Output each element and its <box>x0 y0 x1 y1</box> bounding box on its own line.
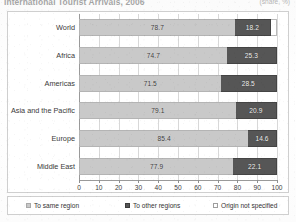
bar-segment-same-region[interactable]: 85.4 <box>79 130 248 147</box>
bar-segment-same-region[interactable]: 74.7 <box>79 47 227 64</box>
bar-value-label: 79.1 <box>151 107 164 114</box>
bar-value-label: 25.3 <box>245 52 258 59</box>
legend-item-unspecified[interactable]: Origin not specified <box>213 202 277 209</box>
x-tick <box>158 180 159 183</box>
x-tick <box>178 180 179 183</box>
bar-segment-other-regions[interactable]: 14.6 <box>248 130 277 147</box>
bar-rows: World78.718.2Africa74.725.3Americas71.52… <box>79 14 277 180</box>
bar-value-label: 20.9 <box>249 107 262 114</box>
x-tick <box>79 180 80 183</box>
bar-segment-same-region[interactable]: 79.1 <box>79 102 236 119</box>
x-tick-label: 60 <box>194 184 201 191</box>
x-tick-label: 80 <box>234 184 241 191</box>
bar-segment-other-regions[interactable]: 25.3 <box>227 47 277 64</box>
x-tick <box>119 180 120 183</box>
bar-row[interactable]: Africa74.725.3 <box>79 47 277 64</box>
category-label: Africa <box>56 47 75 64</box>
legend-label-other-regions: To other regions <box>133 202 180 209</box>
bar-value-label: 18.2 <box>246 24 259 31</box>
x-tick-label: 20 <box>115 184 122 191</box>
bar-segment-other-regions[interactable]: 22.1 <box>233 158 277 175</box>
category-label: Asia and the Pacific <box>11 102 75 119</box>
legend-swatch-origin-not-specified <box>213 203 218 208</box>
bar-value-label: 22.1 <box>248 163 261 170</box>
x-tick-label: 90 <box>254 184 261 191</box>
bar-row[interactable]: Middle East77.922.1 <box>79 158 277 175</box>
x-tick <box>99 180 100 183</box>
x-tick <box>198 180 199 183</box>
bar-value-label: 71.5 <box>144 80 157 87</box>
bar-row[interactable]: World78.718.2 <box>79 19 277 36</box>
bar-value-label: 85.4 <box>157 135 170 142</box>
chart-page: International Tourist Arrivals, 2006 (sh… <box>0 0 296 222</box>
category-label: Europe <box>51 130 75 147</box>
legend-item-other[interactable]: To other regions <box>125 202 180 209</box>
legend-swatch-same-region <box>26 203 31 208</box>
x-tick <box>218 180 219 183</box>
x-tick-label: 50 <box>174 184 181 191</box>
bar-row[interactable]: Americas71.528.5 <box>79 75 277 92</box>
x-tick <box>257 180 258 183</box>
x-tick-label: 0 <box>77 184 81 191</box>
bar-segment-origin-not-specified[interactable] <box>271 19 277 36</box>
legend-swatch-other-regions <box>125 203 130 208</box>
bar-segment-same-region[interactable]: 71.5 <box>79 75 221 92</box>
bar-segment-same-region[interactable]: 78.7 <box>79 19 235 36</box>
category-label: Americas <box>45 75 75 92</box>
legend-label-same-region: To same region <box>34 202 79 209</box>
x-tick-label: 70 <box>214 184 221 191</box>
category-label: World <box>56 19 75 36</box>
bar-segment-other-regions[interactable]: 18.2 <box>235 19 271 36</box>
bar-segment-same-region[interactable]: 77.9 <box>79 158 233 175</box>
x-axis: 0102030405060708090100 <box>79 180 277 196</box>
bar-row[interactable]: Asia and the Pacific79.120.9 <box>79 102 277 119</box>
legend-item-same[interactable]: To same region <box>26 202 79 209</box>
plot-area: World78.718.2Africa74.725.3Americas71.52… <box>79 14 277 180</box>
x-tick-label: 100 <box>271 184 282 191</box>
x-tick <box>138 180 139 183</box>
bar-value-label: 28.5 <box>242 80 255 87</box>
x-tick-label: 30 <box>135 184 142 191</box>
x-tick <box>277 180 278 183</box>
bar-row[interactable]: Europe85.414.6 <box>79 130 277 147</box>
bar-segment-other-regions[interactable]: 20.9 <box>236 102 277 119</box>
bar-value-label: 74.7 <box>147 52 160 59</box>
gridline <box>277 14 278 180</box>
unit-note: (share, %) <box>260 0 290 5</box>
page-title: International Tourist Arrivals, 2006 <box>4 0 144 7</box>
category-label: Middle East <box>37 158 75 175</box>
x-tick-label: 10 <box>95 184 102 191</box>
x-tick <box>237 180 238 183</box>
legend-label-origin-not-specified: Origin not specified <box>221 202 277 209</box>
chart-title-bar: International Tourist Arrivals, 2006 (sh… <box>4 0 292 9</box>
bar-segment-other-regions[interactable]: 28.5 <box>221 75 277 92</box>
bar-value-label: 77.9 <box>150 163 163 170</box>
chart-legend: To same region To other regions Origin n… <box>7 196 289 215</box>
bar-value-label: 14.6 <box>255 135 268 142</box>
x-tick-label: 40 <box>155 184 162 191</box>
bar-value-label: 78.7 <box>151 24 164 31</box>
